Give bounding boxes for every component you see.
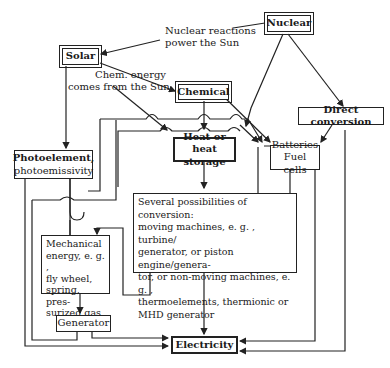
node-nuclear: Nuclear <box>267 15 311 32</box>
node-nuclear-label: Nuclear <box>267 17 311 30</box>
node-heat-storage: Heat or heat storage <box>173 137 236 162</box>
node-solar: Solar <box>62 48 99 65</box>
node-conversion: Several possibilities of conversion: mov… <box>133 193 297 273</box>
node-generator-label: Generator <box>58 317 110 330</box>
node-batteries: Batteries Fuel cells <box>270 145 320 170</box>
node-photoelement: Photoelement, photoemissivity <box>14 150 93 179</box>
node-solar-label: Solar <box>66 50 95 63</box>
node-electricity: Electricity <box>171 336 238 354</box>
node-direct-conversion: Direct conversion <box>298 107 384 125</box>
node-chemical: Chemical <box>178 84 229 100</box>
node-direct-conversion-label: Direct conversion <box>299 104 383 129</box>
node-chemical-label: Chemical <box>177 86 229 99</box>
edge-label-solar-chemical: Chem. energy comes from the Sun <box>68 69 170 93</box>
node-electricity-label: Electricity <box>176 339 234 352</box>
node-mechanical: Mechanical energy, e. g. , fly wheel, sp… <box>41 235 110 294</box>
edge-label-nuclear-solar: Nuclear reactions power the Sun <box>165 25 256 49</box>
node-generator: Generator <box>56 315 111 332</box>
